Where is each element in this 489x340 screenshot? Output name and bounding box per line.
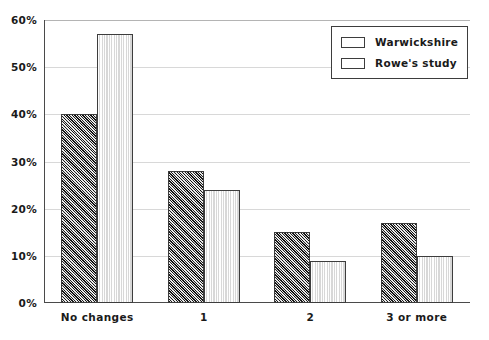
bar-warwickshire (168, 171, 204, 303)
y-axis-tick-label: 30% (0, 156, 37, 168)
x-axis-tick-label: 3 or more (386, 311, 447, 323)
bar-rowes-study (310, 261, 346, 303)
legend-swatch-warwickshire (341, 37, 365, 48)
bar-warwickshire (381, 223, 417, 303)
bar-warwickshire (274, 232, 310, 303)
bar-warwickshire (61, 114, 97, 303)
legend-label-warwickshire: Warwickshire (375, 36, 458, 48)
y-axis-tick-label: 40% (0, 108, 37, 120)
bar-rowes-study (97, 34, 133, 303)
x-axis-tick-label: No changes (61, 311, 134, 323)
y-axis-tick-label: 60% (0, 14, 37, 26)
legend: Warwickshire Rowe's study (331, 26, 468, 79)
bar-rowes-study (204, 190, 240, 303)
y-axis-tick-label: 0% (0, 297, 37, 309)
legend-item-warwickshire: Warwickshire (341, 34, 459, 50)
legend-label-rowes-study: Rowe's study (375, 57, 457, 69)
bar-chart: 0%10%20%30%40%50%60% No changes123 or mo… (0, 0, 489, 340)
legend-item-rowes-study: Rowe's study (341, 55, 459, 71)
y-axis-tick-label: 10% (0, 250, 37, 262)
x-axis-tick-label: 2 (306, 311, 314, 323)
y-axis-tick-label: 20% (0, 203, 37, 215)
x-axis-tick-label: 1 (200, 311, 208, 323)
y-axis-tick-label: 50% (0, 61, 37, 73)
bar-rowes-study (417, 256, 453, 303)
legend-swatch-rowes-study (341, 58, 365, 69)
